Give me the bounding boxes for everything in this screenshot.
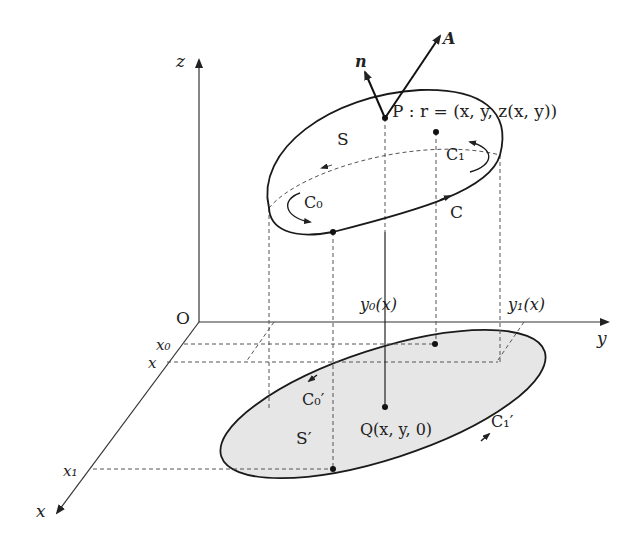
curve-c0-label: C₀ — [304, 193, 323, 212]
z-axis-label: z — [175, 51, 186, 71]
curve-c-label: C — [450, 202, 463, 222]
x-tick: x — [148, 354, 157, 372]
vector-n-label: n — [355, 52, 367, 71]
x0-tick: x₀ — [156, 336, 170, 354]
curve-c1-label: C₁ — [446, 145, 465, 164]
y-axis-label: y — [596, 328, 607, 348]
x1-tick: x₁ — [63, 462, 77, 480]
surface-label: S — [337, 129, 349, 149]
region-s-prime-label: S′ — [296, 428, 312, 448]
x-axis-label: x — [36, 501, 46, 521]
diagram: z y x O x₀ x x₁ y₀(x) y₁(x) S C C₀ C₁ P … — [0, 0, 641, 545]
x-axis — [57, 322, 199, 513]
point-p-label: P : r = (x, y, z(x, y)) — [392, 101, 557, 121]
y1-tick: y₁(x) — [507, 295, 545, 314]
origin-label: O — [176, 308, 190, 328]
curve-c0-prime-label: C₀′ — [302, 390, 325, 409]
point-q-label: Q(x, y, 0) — [360, 420, 432, 439]
vector-a-label: A — [441, 29, 455, 48]
curve-c1-prime-label: C₁′ — [491, 412, 514, 431]
projected-region — [204, 299, 561, 509]
y0-tick: y₀(x) — [359, 295, 397, 314]
